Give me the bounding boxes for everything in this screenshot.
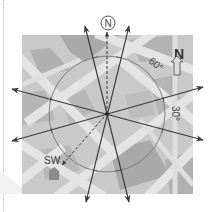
center-point bbox=[105, 112, 109, 116]
angle-label-30: 30° bbox=[170, 106, 181, 121]
north-circle-label: N bbox=[104, 18, 111, 29]
sw-label: SW bbox=[44, 155, 61, 166]
faint-wedge bbox=[0, 170, 22, 194]
compass-diagram: N N 60° 30° SW bbox=[0, 0, 217, 212]
